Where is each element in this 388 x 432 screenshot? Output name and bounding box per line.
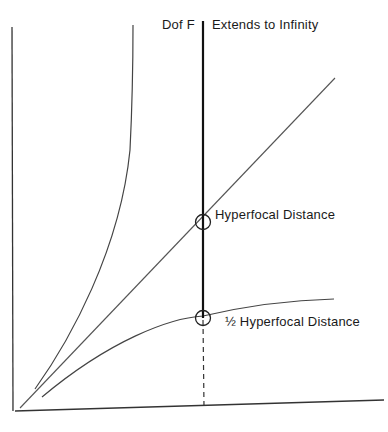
hyperfocal-label: Hyperfocal Distance bbox=[215, 207, 335, 222]
title-dof-label: Dof F bbox=[162, 17, 195, 32]
y-axis bbox=[12, 27, 13, 411]
focus-distance-line bbox=[20, 78, 335, 408]
far-limit-curve bbox=[35, 25, 133, 389]
half-hyperfocal-label: ½ Hyperfocal Distance bbox=[225, 314, 360, 329]
title-infinity-label: Extends to Infinity bbox=[212, 17, 318, 32]
x-axis bbox=[15, 400, 384, 411]
projection-dashed-line bbox=[203, 320, 204, 407]
